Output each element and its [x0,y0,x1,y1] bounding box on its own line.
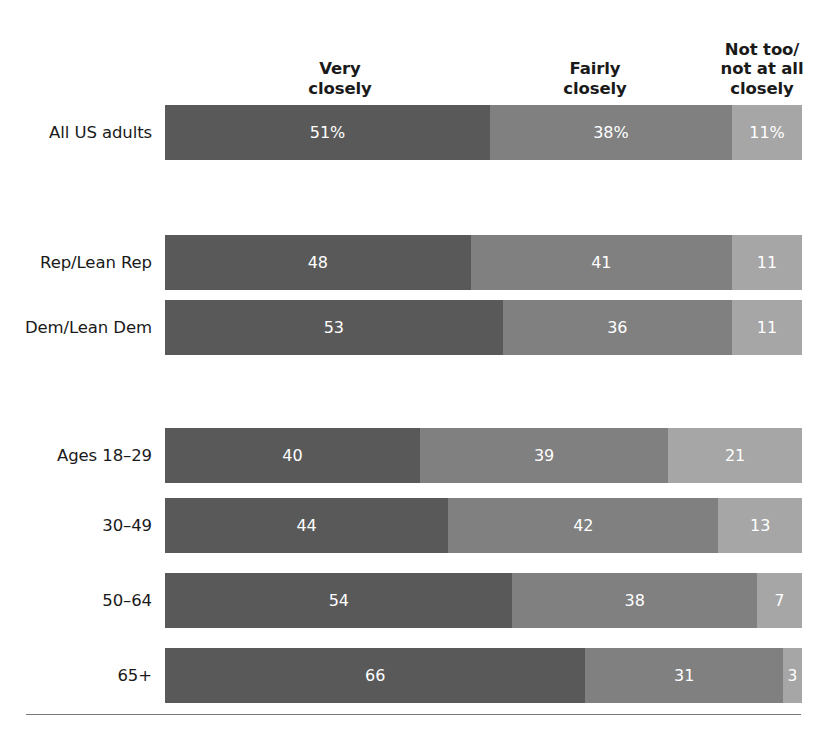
chart-row: Dem/Lean Dem533611 [0,300,819,355]
bar-segment: 36 [503,300,732,355]
bar-segment: 40 [165,428,420,483]
row-label: Rep/Lean Rep [0,235,152,290]
bar-segment-value: 38% [593,123,628,143]
bar-segment-value: 38 [625,591,645,611]
bar-segment: 38% [490,105,732,160]
chart-row: 65+66313 [0,648,819,703]
bar-segment: 38 [512,573,757,628]
bar-segment-value: 66 [365,666,385,686]
row-label: 50–64 [0,573,152,628]
bar-segment: 39 [420,428,668,483]
bar-segment: 53 [165,300,503,355]
stacked-bar: 66313 [165,648,802,703]
bar-segment-value: 40 [282,446,302,466]
bar-segment: 31 [585,648,782,703]
chart-row: Rep/Lean Rep484111 [0,235,819,290]
bar-segment: 11 [732,300,802,355]
bar-segment-value: 44 [296,516,316,536]
stacked-bar: 484111 [165,235,802,290]
column-header-fairly-closely: Fairly closely [510,59,680,98]
bar-segment-value: 31 [674,666,694,686]
stacked-bar-chart: Very closely Fairly closely Not too/ not… [0,0,819,731]
bar-segment: 48 [165,235,471,290]
chart-row: 50–6454387 [0,573,819,628]
bar-segment: 21 [668,428,802,483]
chart-row: 30–49444213 [0,498,819,553]
chart-legend-headers: Very closely Fairly closely Not too/ not… [0,0,819,100]
row-label: Dem/Lean Dem [0,300,152,355]
bar-segment-value: 53 [324,318,344,338]
bar-segment: 11% [732,105,802,160]
bar-segment-value: 41 [591,253,611,273]
bar-segment: 7 [757,573,802,628]
bar-segment: 44 [165,498,448,553]
bar-segment-value: 3 [788,666,798,686]
stacked-bar: 533611 [165,300,802,355]
bar-segment-value: 51% [310,123,345,143]
row-label: All US adults [0,105,152,160]
column-header-very-closely: Very closely [255,59,425,98]
bar-segment: 51% [165,105,490,160]
bar-segment: 41 [471,235,732,290]
stacked-bar: 54387 [165,573,802,628]
bar-segment: 11 [732,235,802,290]
stacked-bar: 444213 [165,498,802,553]
bar-segment-value: 11 [757,253,777,273]
column-header-not-too-closely: Not too/ not at all closely [712,40,812,99]
row-label: 65+ [0,648,152,703]
bar-segment: 66 [165,648,585,703]
row-label: Ages 18–29 [0,428,152,483]
bar-segment-value: 7 [775,591,785,611]
bar-segment: 13 [718,498,802,553]
bar-segment-value: 54 [329,591,349,611]
stacked-bar: 403921 [165,428,802,483]
bar-segment: 54 [165,573,512,628]
bar-segment-value: 11 [757,318,777,338]
chart-bottom-rule [26,714,801,715]
bar-segment: 3 [783,648,802,703]
bar-segment-value: 13 [750,516,770,536]
stacked-bar: 51%38%11% [165,105,802,160]
bar-segment-value: 42 [573,516,593,536]
chart-row: All US adults51%38%11% [0,105,819,160]
bar-segment: 42 [448,498,718,553]
row-label: 30–49 [0,498,152,553]
bar-segment-value: 11% [749,123,784,143]
bar-segment-value: 36 [607,318,627,338]
bar-segment-value: 21 [725,446,745,466]
bar-segment-value: 39 [534,446,554,466]
bar-segment-value: 48 [308,253,328,273]
chart-row: Ages 18–29403921 [0,428,819,483]
